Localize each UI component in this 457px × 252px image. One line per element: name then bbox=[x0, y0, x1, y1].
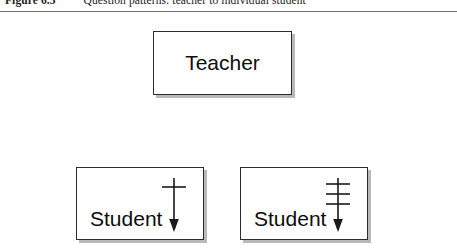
teacher-node-label: Teacher bbox=[154, 32, 291, 94]
figure-caption: Figure 6.5 Question patterns: teacher to… bbox=[0, 0, 457, 11]
student-node-1: Student bbox=[76, 167, 204, 240]
caption-divider-rule bbox=[0, 11, 457, 12]
figure-caption-label: Figure 6.5 bbox=[5, 0, 56, 6]
figure-caption-text: Figure 6.5 Question patterns: teacher to… bbox=[5, 0, 306, 6]
down-arrow-one-tick-icon bbox=[157, 174, 191, 236]
teacher-node: Teacher bbox=[153, 31, 292, 95]
student-node-2: Student bbox=[240, 167, 368, 240]
down-arrow-three-ticks-icon bbox=[321, 174, 355, 236]
student-node-1-label: Student bbox=[90, 207, 162, 231]
figure-caption-body: Question patterns: teacher to individual… bbox=[84, 0, 306, 6]
student-node-2-label: Student bbox=[254, 207, 326, 231]
